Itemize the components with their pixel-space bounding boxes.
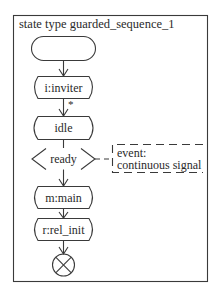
diagram-title: state type guarded_sequence_1	[19, 17, 175, 31]
state-node-idle[interactable]: idle	[34, 117, 93, 140]
comment-event: event: continuous signal	[95, 145, 203, 173]
edge-start-inviter	[59, 61, 68, 77]
terminator-icon[interactable]	[53, 254, 75, 276]
edge-main-relinit	[59, 209, 68, 219]
task-label: m:main	[45, 191, 82, 205]
edge-label-asterisk: *	[68, 98, 74, 110]
edge-inviter-idle: *	[59, 98, 74, 116]
start-node[interactable]	[32, 37, 96, 61]
state-diagram: state type guarded_sequence_1 i:inviter …	[0, 0, 222, 297]
edge-ready-main	[59, 170, 68, 187]
task-node-inviter[interactable]: i:inviter	[35, 77, 93, 99]
guard-node-ready[interactable]: ready	[32, 149, 95, 170]
task-node-rel-init[interactable]: r:rel_init	[35, 219, 93, 241]
edge-relinit-end	[59, 241, 68, 255]
state-label: idle	[55, 121, 73, 135]
guard-label: ready	[50, 152, 77, 166]
task-label: i:inviter	[45, 81, 83, 95]
task-label: r:rel_init	[43, 223, 86, 237]
comment-line-2: continuous signal	[117, 158, 202, 172]
diagram-frame	[14, 16, 208, 282]
task-node-main[interactable]: m:main	[35, 187, 93, 209]
